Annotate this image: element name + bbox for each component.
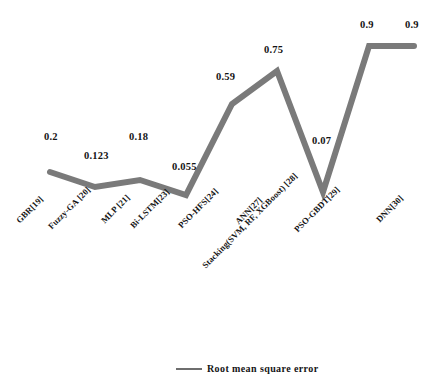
data-label-6: 0.07 (312, 135, 331, 146)
rmse-line-chart: 0.20.1230.180.0550.590.750.070.90.9 GBR[… (0, 0, 438, 392)
data-label-7: 0.9 (360, 19, 374, 30)
data-label-0: 0.2 (44, 131, 58, 142)
data-label-1: 0.123 (84, 150, 109, 161)
data-label-3: 0.055 (172, 161, 197, 172)
series-line-root-mean-square-error (50, 46, 414, 195)
chart-legend: Root mean square error (176, 363, 318, 374)
chart-plot-area (0, 0, 438, 392)
data-label-5: 0.75 (264, 44, 283, 55)
data-label-4: 0.59 (216, 71, 235, 82)
legend-line-swatch (176, 368, 202, 370)
data-label-8: 0.9 (405, 19, 419, 30)
data-label-2: 0.18 (129, 131, 148, 142)
legend-label: Root mean square error (207, 363, 318, 374)
